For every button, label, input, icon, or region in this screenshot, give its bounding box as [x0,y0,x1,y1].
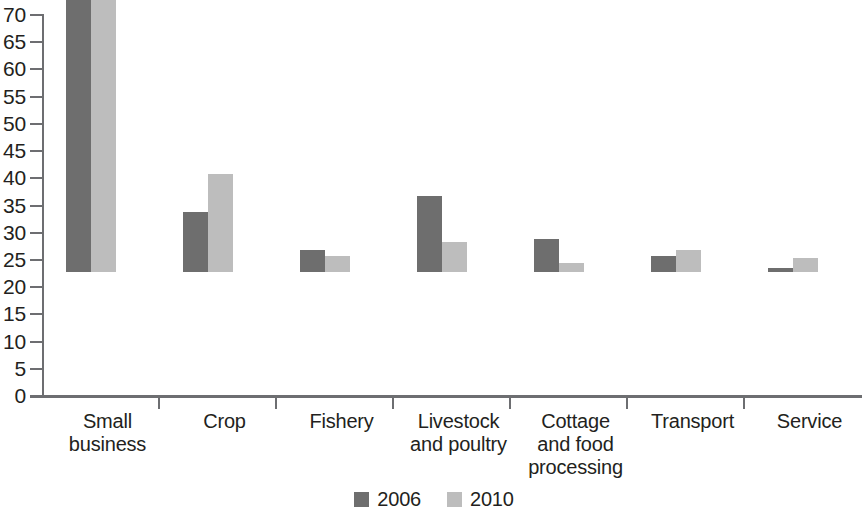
bar-2006 [768,268,793,272]
legend-label: 2010 [470,489,514,509]
bar-group [0,0,868,396]
x-axis-tick [392,398,394,409]
legend-swatch-icon [447,492,462,507]
legend-swatch-icon [354,492,369,507]
x-axis-label-line: Service [734,410,868,433]
x-axis-tick [509,398,511,409]
x-axis-label-line: processing [500,456,651,479]
x-axis-tick [158,398,160,409]
grouped-bar-chart: 0510152025303540455055606570 Smallbusine… [0,0,868,520]
bar-2010 [793,258,818,272]
x-axis-tick [743,398,745,409]
legend-item-2010[interactable]: 2010 [447,489,514,509]
legend-label: 2006 [377,489,421,509]
legend-item-2006[interactable]: 2006 [354,489,421,509]
x-axis-label-line: business [32,433,183,456]
x-axis-label-service: Service [734,410,868,433]
legend: 20062010 [0,489,868,509]
x-axis-tick [626,398,628,409]
x-axis-label-line: and food [500,433,651,456]
x-axis-tick [275,398,277,409]
